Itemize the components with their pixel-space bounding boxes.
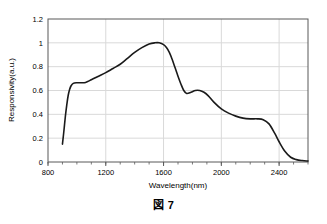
y-tick-label: 0.2 [33,134,43,143]
x-tick-label: 2000 [213,168,230,177]
y-tick-label: 0 [39,158,43,167]
figure-container: 8001200160020002400 00.20.40.60.811.2 Wa… [0,0,327,224]
x-tick-label: 2400 [271,168,288,177]
y-axis-title: Responsivity(a.u.) [7,58,16,122]
y-tick-label: 0.8 [33,62,43,71]
chart-plot-area: 8001200160020002400 00.20.40.60.811.2 Wa… [0,0,327,195]
y-tick-label: 0.4 [33,110,43,119]
x-axis-title: Wavelength(nm) [149,181,208,190]
x-tick-label: 1200 [97,168,114,177]
x-axis-major-ticks [48,162,279,166]
x-tick-label: 800 [42,168,55,177]
x-tick-label: 1600 [155,168,172,177]
y-tick-label: 1 [39,39,43,48]
responsivity-line-chart: 8001200160020002400 00.20.40.60.811.2 Wa… [0,0,327,195]
y-axis-tick-labels: 00.20.40.60.811.2 [33,15,43,167]
y-tick-label: 1.2 [33,15,43,24]
y-tick-label: 0.6 [33,86,43,95]
figure-caption: 図 7 [0,196,327,212]
x-axis-tick-labels: 8001200160020002400 [42,168,288,177]
